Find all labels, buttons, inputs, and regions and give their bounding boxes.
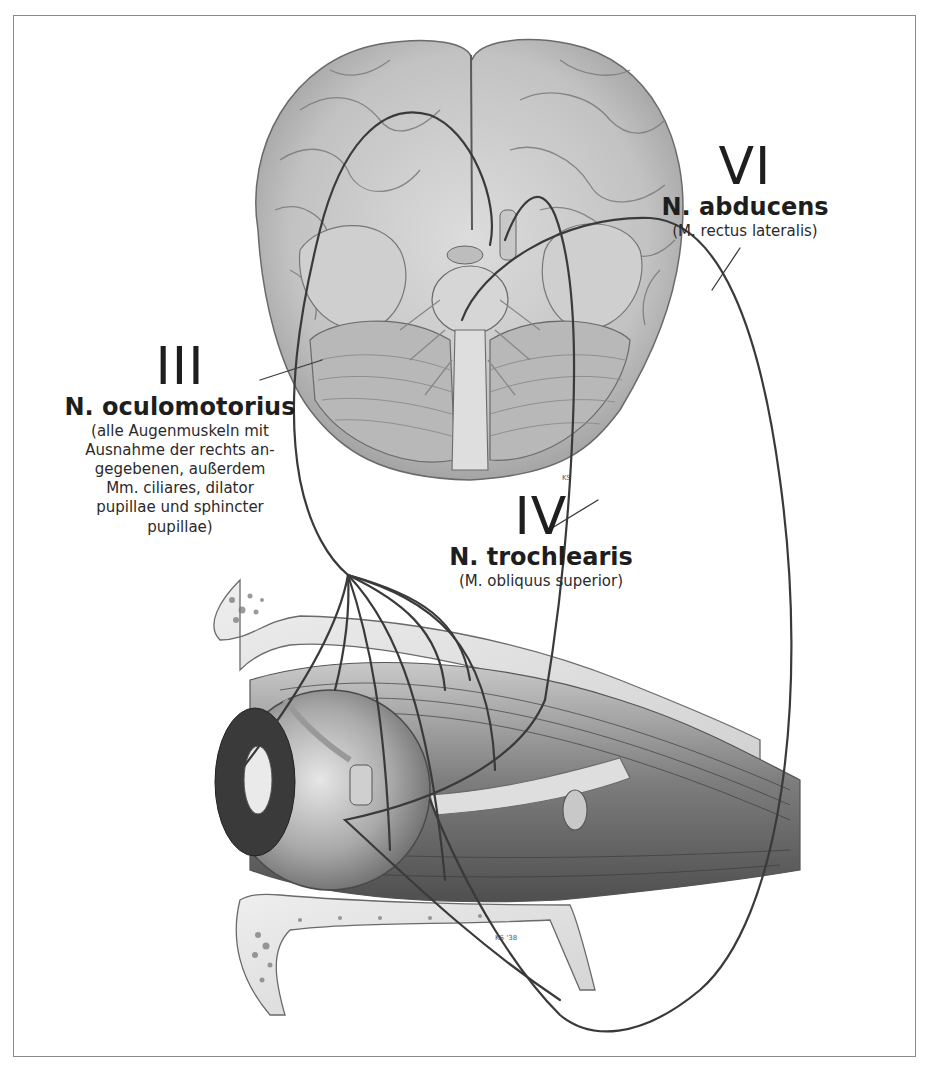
muscles-abducens: (M. rectus lateralis) [655, 222, 835, 241]
nerve-name-oculomotorius: N. oculomotorius [50, 394, 310, 422]
label-abducens: VI N. abducens (M. rectus lateralis) [655, 140, 835, 241]
numeral-iv: IV [436, 490, 646, 542]
muscles-oculomotorius: (alle Augenmuskeln mit Ausnahme der rech… [50, 422, 310, 537]
brain-illustration [256, 40, 683, 480]
numeral-iii: III [50, 340, 310, 392]
nerve-name-trochlearis: N. trochlearis [436, 544, 646, 572]
numeral-vi: VI [655, 140, 835, 192]
label-oculomotorius: III N. oculomotorius (alle Augenmuskeln … [50, 340, 310, 537]
muscles-trochlearis: (M. obliquus superior) [436, 572, 646, 591]
nerve-name-abducens: N. abducens [655, 194, 835, 222]
leader-line-vi [712, 248, 740, 290]
label-trochlearis: IV N. trochlearis (M. obliquus superior) [436, 490, 646, 591]
